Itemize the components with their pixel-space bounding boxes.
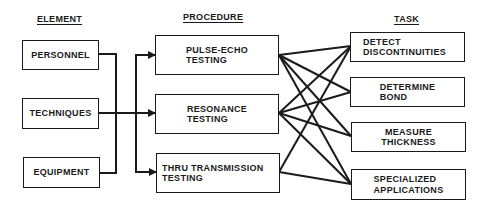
procedure-box-thru-transmission: THRU TRANSMISSION TESTING xyxy=(156,153,280,193)
procedure-column-header: PROCEDURE xyxy=(183,12,243,22)
procedure-label-line2: TESTING xyxy=(186,55,248,66)
task-box-specialized-applications: SPECIALIZED APPLICATIONS xyxy=(351,169,466,200)
element-label: TECHNIQUES xyxy=(29,108,91,119)
task-label-line1: DETERMINE xyxy=(380,82,436,93)
procedure-box-pulse-echo: PULSE-ECHO TESTING xyxy=(155,35,279,75)
procedure-label-line1: PULSE-ECHO xyxy=(186,45,248,56)
procedure-label-line1: RESONANCE xyxy=(187,104,247,115)
task-label-line2: BOND xyxy=(380,92,436,103)
procedure-label-line1: THRU TRANSMISSION xyxy=(162,163,279,174)
procedure-label-line2: TESTING xyxy=(187,114,247,125)
procedure-label-line2: TESTING xyxy=(162,173,279,184)
element-box-techniques: TECHNIQUES xyxy=(22,98,99,129)
task-column-header: TASK xyxy=(394,14,419,24)
task-label-line1: DETECT xyxy=(363,37,464,48)
task-box-detect-discontinuities: DETECT DISCONTINUITIES xyxy=(350,32,465,62)
task-label-line1: SPECIALIZED xyxy=(374,174,444,185)
task-label-line2: THICKNESS xyxy=(381,137,436,148)
task-label-line1: MEASURE xyxy=(385,127,432,138)
element-box-personnel: PERSONNEL xyxy=(22,40,99,70)
task-label-line2: DISCONTINUITIES xyxy=(363,47,464,58)
element-box-equipment: EQUIPMENT xyxy=(23,157,100,188)
element-label: PERSONNEL xyxy=(31,50,90,61)
element-label: EQUIPMENT xyxy=(33,167,89,178)
element-column-header: ELEMENT xyxy=(37,14,82,24)
procedure-box-resonance: RESONANCE TESTING xyxy=(155,94,279,134)
task-label-line2: APPLICATIONS xyxy=(374,185,444,196)
task-box-determine-bond: DETERMINE BOND xyxy=(350,77,465,107)
task-box-measure-thickness: MEASURE THICKNESS xyxy=(351,122,466,152)
